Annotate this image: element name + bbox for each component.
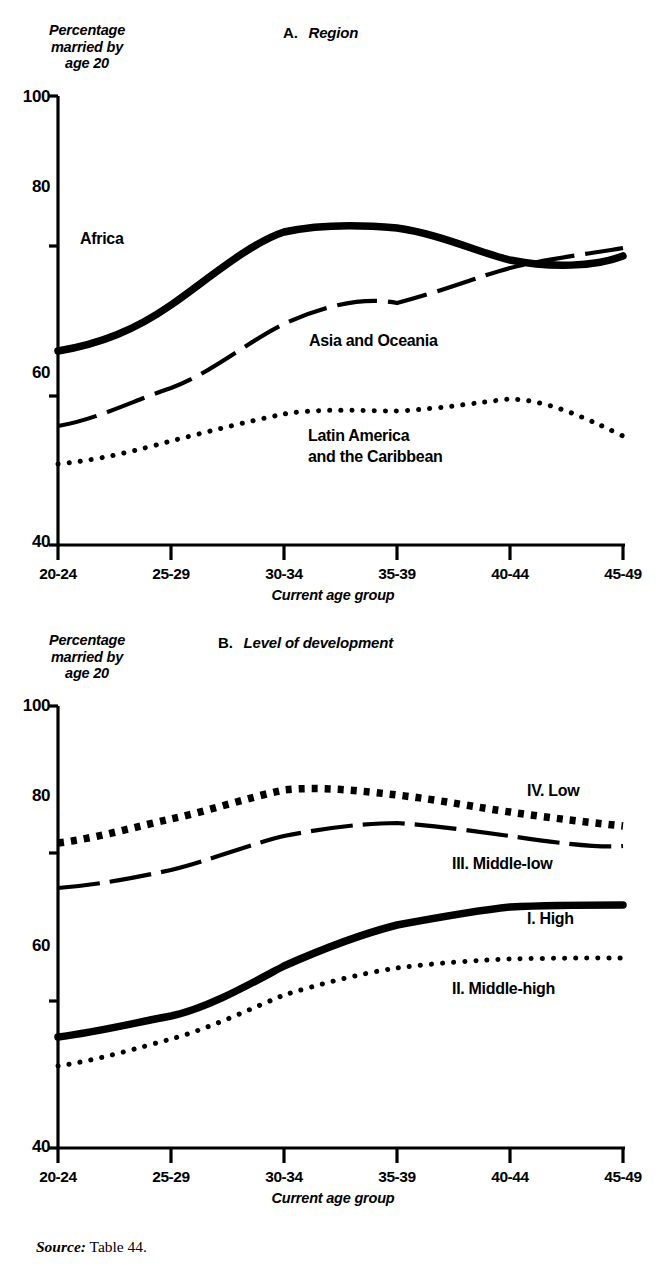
source-label: Source: (36, 1238, 86, 1255)
x-tick-a-25-29: 25-29 (131, 565, 211, 583)
series-label-africa: Africa (80, 228, 124, 249)
x-axis-title-b: Current age group (0, 1190, 666, 1206)
x-tick-a-30-34: 30-34 (244, 565, 324, 583)
x-tick-a-20-24: 20-24 (18, 565, 98, 583)
x-tick-b-20-24: 20-24 (18, 1168, 98, 1186)
series-line-middle-high (58, 958, 623, 1066)
x-tick-b-25-29: 25-29 (131, 1168, 211, 1186)
plot-area-a (0, 0, 666, 610)
chart-a-svg (0, 0, 666, 610)
source-text: Table 44. (86, 1238, 147, 1255)
x-tick-a-35-39: 35-39 (357, 565, 437, 583)
x-tick-b-40-44: 40-44 (470, 1168, 550, 1186)
x-tick-b-35-39: 35-39 (357, 1168, 437, 1186)
panel-region: Percentage married by age 20 A. Region 1… (0, 0, 666, 610)
series-label-middle-low: III. Middle-low (452, 853, 552, 874)
x-tick-a-40-44: 40-44 (470, 565, 550, 583)
axis-lines-b (49, 706, 625, 1163)
chart-b-svg (0, 612, 666, 1172)
series-label-latin: Latin America and the Caribbean (308, 425, 442, 467)
series-label-middle-high: II. Middle-high (452, 978, 555, 999)
plot-area-b (0, 612, 666, 1172)
x-axis-title-a: Current age group (0, 587, 666, 603)
source-note: Source: Table 44. (36, 1238, 147, 1256)
x-tick-a-45-49: 45-49 (583, 565, 663, 583)
panel-level-of-development: Percentage married by age 20 B. Level of… (0, 612, 666, 1172)
series-label-low: IV. Low (527, 780, 579, 801)
x-tick-b-30-34: 30-34 (244, 1168, 324, 1186)
x-tick-b-45-49: 45-49 (583, 1168, 663, 1186)
series-label-asia: Asia and Oceania (309, 330, 438, 351)
series-label-high: I. High (527, 908, 574, 929)
